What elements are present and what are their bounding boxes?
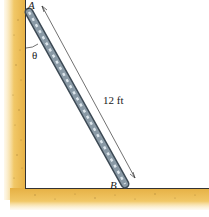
- length-dimension: [42, 6, 135, 178]
- ladder-diagram: A θ 12 ft B: [0, 0, 209, 217]
- label-angle-theta: θ: [32, 50, 37, 61]
- wall: [4, 0, 26, 200]
- ground: [10, 188, 209, 210]
- label-point-a: A: [28, 0, 35, 11]
- label-point-b: B: [110, 180, 117, 191]
- diagram-drawing: [0, 0, 209, 217]
- angle-arc: [26, 44, 38, 48]
- label-length: 12 ft: [103, 95, 123, 106]
